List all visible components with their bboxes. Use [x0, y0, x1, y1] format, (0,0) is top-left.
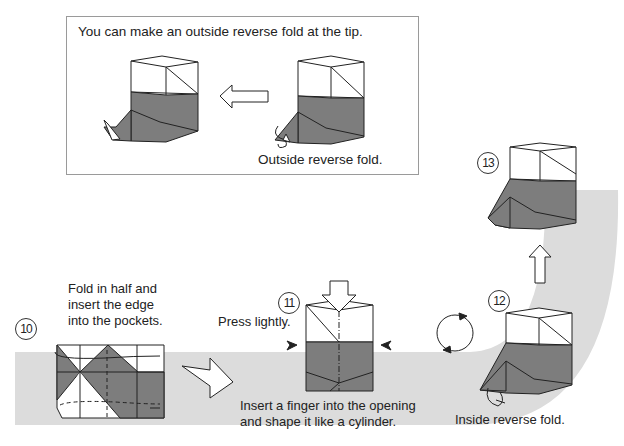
step12-caption: Inside reverse fold.: [455, 412, 565, 428]
step11-model: [306, 281, 373, 391]
step13-model: [488, 143, 576, 229]
step-number-11: 11: [278, 292, 300, 314]
arrow-12-to-13: [529, 245, 551, 283]
step-number-12: 12: [488, 290, 510, 312]
step10-instruction-line-3: into the pockets.: [68, 313, 163, 329]
step11-instruction-line-1: Insert a finger into the opening: [240, 398, 416, 414]
inset-arrow-left: [220, 85, 268, 108]
step10-model: [55, 345, 164, 418]
step10-instruction-line-1: Fold in half and: [68, 281, 157, 297]
press-arrow-left: [287, 341, 297, 350]
step-number-10: 10: [15, 318, 37, 340]
illustrations: [0, 0, 624, 446]
step-number-13: 13: [477, 152, 499, 174]
press-arrow-right: [381, 341, 391, 350]
arrow-10-to-11: [182, 358, 233, 398]
step11-press-label: Press lightly.: [218, 314, 291, 330]
step10-instruction-line-2: insert the edge: [68, 297, 154, 313]
step12-model: [480, 308, 572, 406]
step11-instruction-line-2: and shape it like a cylinder.: [240, 414, 396, 430]
inset-boot-before: [275, 56, 364, 148]
inset-boot-result: [104, 56, 198, 142]
rotate-symbol: [437, 313, 473, 353]
